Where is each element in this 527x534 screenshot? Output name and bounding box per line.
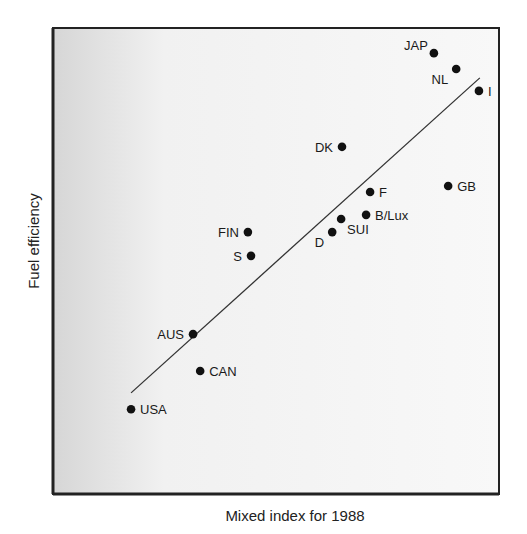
data-point-label: CAN [209,364,236,379]
data-point-marker [475,87,484,96]
data-point-marker [430,49,439,58]
data-point-label: SUI [347,222,369,237]
data-point-marker [189,330,198,339]
data-point-label: NL [432,72,449,87]
plot-area [53,28,499,494]
data-point-marker [127,405,136,414]
data-point-marker [328,228,337,237]
y-axis-label: Fuel efficiency [25,193,42,289]
data-point-label: FIN [218,225,239,240]
data-point-label: F [379,185,387,200]
data-point-label: DK [315,140,333,155]
data-point-marker [338,143,347,152]
data-point-label: GB [457,179,476,194]
data-point-label: JAP [404,38,428,53]
data-point-marker [362,211,371,220]
data-point-marker [247,252,256,261]
data-point-label: I [488,84,492,99]
data-point-label: B/Lux [375,208,409,223]
x-axis-label: Mixed index for 1988 [225,507,364,524]
data-point-marker [452,65,461,74]
data-point-marker [244,228,253,237]
data-point-label: S [233,249,242,264]
data-point-label: USA [140,402,167,417]
data-point-marker [196,367,205,376]
scatter-plot: USACANAUSSFINDSUIB/LuxFDKGBINLJAP [0,0,527,534]
data-point-label: D [315,235,324,250]
data-point-marker [337,215,346,224]
data-point-marker [444,182,453,191]
data-point-label: AUS [157,327,184,342]
data-point-marker [366,188,375,197]
